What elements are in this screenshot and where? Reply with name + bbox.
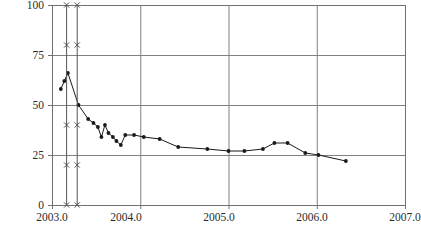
- data-point-marker: [242, 149, 246, 153]
- data-point-marker: [100, 135, 104, 139]
- data-point-marker: [205, 147, 209, 151]
- y-axis-tick-100: 100: [2, 0, 44, 12]
- data-point-marker: [176, 145, 180, 149]
- x-axis-tick-2007: 2007.0: [365, 212, 421, 224]
- data-point-marker: [96, 125, 100, 129]
- data-point-marker: [132, 133, 136, 137]
- y-axis-tick-50: 50: [2, 100, 44, 112]
- data-point-marker: [103, 123, 107, 127]
- y-axis-tick-75: 75: [2, 50, 44, 62]
- data-point-marker: [115, 139, 119, 143]
- data-point-marker: [261, 147, 265, 151]
- data-point-marker: [107, 131, 111, 135]
- x-axis-tick-2003: 2003.0: [12, 212, 92, 224]
- data-point-marker: [111, 135, 115, 139]
- y-axis-tick-0: 0: [2, 200, 44, 212]
- data-point-marker: [303, 151, 307, 155]
- data-point-marker: [286, 141, 290, 145]
- data-point-marker: [158, 137, 162, 141]
- data-line: [61, 73, 346, 161]
- x-axis-tick-2006: 2006.0: [272, 212, 352, 224]
- y-axis-tick-25: 25: [2, 150, 44, 162]
- data-point-marker: [62, 79, 66, 83]
- line-chart-plot: [0, 0, 421, 227]
- data-point-marker: [86, 117, 90, 121]
- data-point-marker: [59, 87, 63, 91]
- data-point-marker: [227, 149, 231, 153]
- data-point-marker: [317, 153, 321, 157]
- x-axis-tick-2004: 2004.0: [86, 212, 166, 224]
- data-point-marker: [123, 133, 127, 137]
- data-point-marker: [142, 135, 146, 139]
- chart-container: 100 75 50 25 0 2003.0 2004.0 2005.0 2006…: [0, 0, 421, 227]
- data-point-marker: [92, 121, 96, 125]
- x-axis-tick-2005: 2005.0: [179, 212, 259, 224]
- data-point-marker: [119, 143, 123, 147]
- data-point-marker: [272, 141, 276, 145]
- data-point-marker: [344, 159, 348, 163]
